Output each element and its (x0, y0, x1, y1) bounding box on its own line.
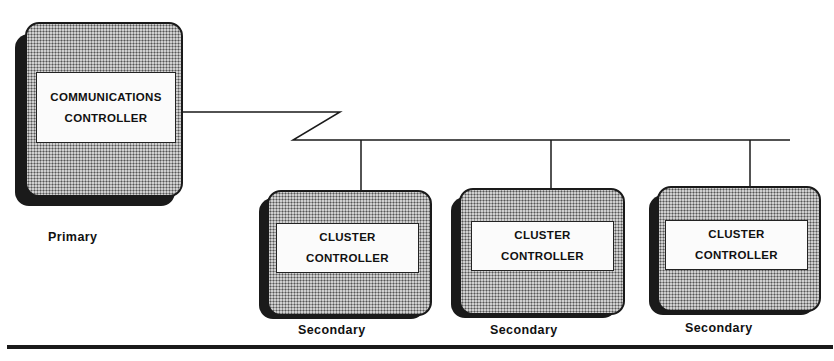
secondary-1-label-line1: CLUSTER (319, 227, 375, 248)
secondary-3-label-line2: CONTROLLER (695, 245, 778, 266)
cluster-controller-1-label: CLUSTER CONTROLLER (276, 223, 419, 273)
primary-label-line2: CONTROLLER (65, 108, 148, 129)
secondary-2-label-line2: CONTROLLER (501, 246, 584, 267)
secondary-3-caption: Secondary (685, 321, 753, 335)
secondary-3-label-line1: CLUSTER (708, 224, 764, 245)
communications-controller-label: COMMUNICATIONS CONTROLLER (36, 72, 176, 143)
cluster-controller-3-label: CLUSTER CONTROLLER (665, 220, 808, 270)
secondary-2-caption: Secondary (490, 323, 558, 337)
primary-caption: Primary (48, 230, 97, 244)
primary-link-zigzag (182, 112, 790, 140)
bottom-rule-divider (7, 345, 833, 349)
cluster-controller-2-label: CLUSTER CONTROLLER (471, 221, 614, 271)
primary-label-line1: COMMUNICATIONS (50, 87, 161, 108)
diagram-canvas: COMMUNICATIONS CONTROLLER Primary CLUSTE… (0, 0, 834, 361)
secondary-1-label-line2: CONTROLLER (306, 248, 389, 269)
secondary-2-label-line1: CLUSTER (514, 225, 570, 246)
secondary-1-caption: Secondary (298, 323, 366, 337)
